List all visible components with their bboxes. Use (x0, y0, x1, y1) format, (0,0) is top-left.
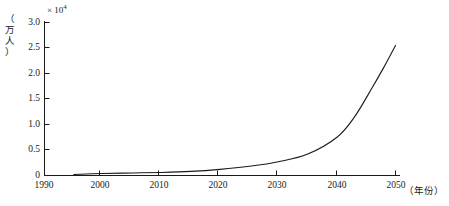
y-tick-label-0.5: 0.5 (16, 145, 40, 155)
x-axis-title: （年份） (404, 186, 444, 196)
x-tick-label-2010: 2010 (141, 181, 177, 191)
y-tick-label-1.0: 1.0 (16, 120, 40, 130)
x-tick-label-2030: 2030 (259, 181, 295, 191)
population-growth-chart: （ 万 人 ） × 104 0 0.5 1.0 1.5 (0, 0, 449, 206)
y-axis-ticks (45, 23, 50, 176)
y-tick-label-2.0: 2.0 (16, 69, 40, 79)
y-tick-label-3.0: 3.0 (16, 18, 40, 28)
plot-area (0, 0, 449, 206)
x-tick-label-2040: 2040 (319, 181, 355, 191)
x-tick-label-2000: 2000 (82, 181, 118, 191)
y-tick-label-2.5: 2.5 (16, 43, 40, 53)
y-tick-label-1.5: 1.5 (16, 94, 40, 104)
x-tick-label-1990: 1990 (26, 181, 62, 191)
population-curve (74, 45, 396, 174)
x-tick-label-2020: 2020 (200, 181, 236, 191)
